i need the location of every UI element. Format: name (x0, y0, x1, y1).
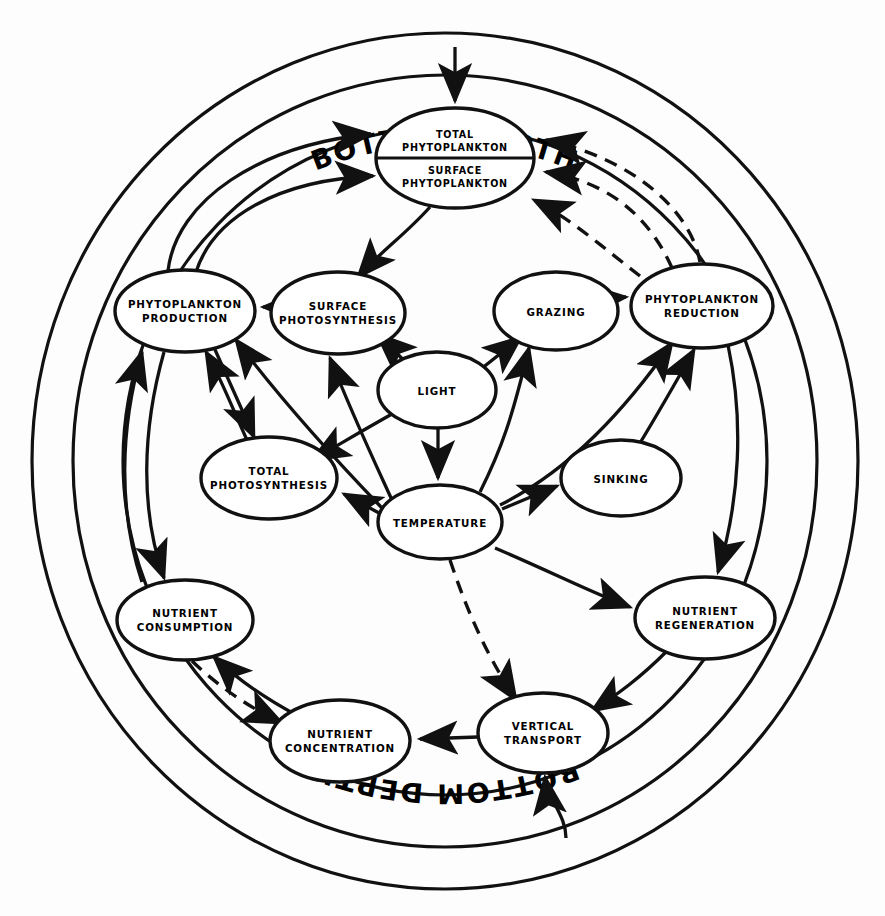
edge-temperature-to-nutrient-regeneration (495, 548, 630, 607)
nutrient-consumption-ellipse[interactable] (117, 580, 253, 660)
phytoplankton-production-ellipse[interactable] (115, 270, 255, 352)
node-grazing[interactable]: GRAZING (494, 272, 618, 350)
node-label-nutrient-concentration-line1: NUTRIENT (307, 728, 373, 740)
surface-photosynthesis-ellipse[interactable] (271, 272, 405, 354)
edge-sinking-to-reduction (640, 350, 694, 443)
node-temperature[interactable]: TEMPERATURE (378, 485, 502, 559)
edge-nutrient-consumption-to-concentration (192, 661, 282, 723)
node-vertical-transport[interactable]: VERTICAL TRANSPORT (478, 693, 608, 773)
phytoplankton-reduction-ellipse[interactable] (631, 264, 773, 348)
edge-production-to-nutrient-consumption (147, 352, 164, 578)
node-label-temperature: TEMPERATURE (393, 517, 487, 529)
node-label-total-phytoplankton-line1: TOTAL (436, 129, 474, 140)
edge-temperature-to-total-photosynthesis (344, 494, 379, 513)
edge-vertical-transport-to-nutrient-concentration (420, 737, 478, 739)
node-nutrient-regeneration[interactable]: NUTRIENT REGENERATION (635, 577, 775, 659)
diagram-canvas: BOTTOM DEPTH BOTTOM DEPTH (0, 0, 885, 916)
node-label-phytoplankton-reduction-line2: REDUCTION (664, 307, 740, 319)
node-label-grazing: GRAZING (526, 306, 585, 318)
edge-grazing-to-reduction (615, 297, 626, 298)
nutrient-regeneration-ellipse[interactable] (635, 577, 775, 659)
edge-total-photosynthesis-to-production (206, 352, 247, 440)
edge-reduction-to-nutrient-regeneration (718, 345, 738, 572)
node-label-light: LIGHT (418, 385, 457, 397)
node-phytoplankton-reduction[interactable]: PHYTOPLANKTON REDUCTION (631, 264, 773, 348)
edge-nutrient-consumption-to-production (125, 352, 142, 582)
node-label-surface-photosynthesis-line1: SURFACE (309, 300, 367, 312)
node-label-nutrient-concentration-line2: CONCENTRATION (285, 742, 395, 754)
node-label-nutrient-consumption-line2: CONSUMPTION (137, 621, 234, 633)
edge-production-to-surface-phytoplankton (196, 176, 373, 272)
node-total-photosynthesis[interactable]: TOTAL PHOTOSYNTHESIS (201, 437, 337, 519)
node-label-phytoplankton-production-line1: PHYTOPLANKTON (128, 298, 242, 310)
node-label-total-phytoplankton-line2: PHYTOPLANKTON (402, 142, 508, 153)
edge-temperature-to-vertical-transport (450, 560, 516, 700)
node-total-surface-phytoplankton[interactable]: TOTAL PHYTOPLANKTON SURFACE PHYTOPLANKTO… (376, 108, 534, 208)
node-nutrient-consumption[interactable]: NUTRIENT CONSUMPTION (117, 580, 253, 660)
node-light[interactable]: LIGHT (378, 352, 496, 428)
node-label-vertical-transport-line2: TRANSPORT (504, 734, 582, 746)
node-label-phytoplankton-production-line2: PRODUCTION (142, 312, 228, 324)
node-label-phytoplankton-reduction-line1: PHYTOPLANKTON (645, 293, 759, 305)
node-label-surface-phytoplankton-line1: SURFACE (428, 165, 482, 176)
node-label-surface-phytoplankton-line2: PHYTOPLANKTON (402, 178, 508, 189)
edge-reduction-to-surface-phytoplankton-lower (534, 200, 640, 276)
node-label-surface-photosynthesis-line2: PHOTOSYNTHESIS (279, 314, 397, 326)
node-label-total-photosynthesis-line1: TOTAL (248, 465, 289, 477)
total-photosynthesis-ellipse[interactable] (201, 437, 337, 519)
node-sinking[interactable]: SINKING (561, 440, 681, 516)
node-label-nutrient-regeneration-line2: REGENERATION (655, 619, 755, 631)
node-label-nutrient-consumption-line1: NUTRIENT (152, 607, 218, 619)
node-label-nutrient-regeneration-line1: NUTRIENT (672, 605, 738, 617)
ecosystem-causal-diagram: BOTTOM DEPTH BOTTOM DEPTH (0, 0, 885, 916)
node-surface-photosynthesis[interactable]: SURFACE PHOTOSYNTHESIS (271, 272, 405, 354)
node-label-vertical-transport-line1: VERTICAL (512, 720, 575, 732)
nutrient-concentration-ellipse[interactable] (270, 700, 410, 782)
edge-nutrient-regeneration-to-vertical-transport (592, 651, 667, 711)
node-nutrient-concentration[interactable]: NUTRIENT CONCENTRATION (270, 700, 410, 782)
vertical-transport-ellipse[interactable] (478, 693, 608, 773)
node-label-sinking: SINKING (593, 473, 648, 485)
node-phytoplankton-production[interactable]: PHYTOPLANKTON PRODUCTION (115, 270, 255, 352)
node-label-total-photosynthesis-line2: PHOTOSYNTHESIS (210, 479, 328, 491)
edge-surface-phytoplankton-to-surface-photosynthesis (358, 207, 430, 277)
